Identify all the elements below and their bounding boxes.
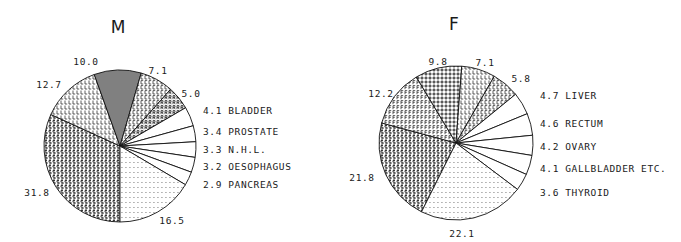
pie-slices-f <box>379 66 533 220</box>
legend-entry-nhl: 3.3 N.H.L. <box>203 144 266 155</box>
value-label-m-16-5: 16.5 <box>159 215 184 226</box>
value-label-f-22-1: 22.1 <box>449 228 474 239</box>
value-label-f-9-8: 9.8 <box>429 56 448 67</box>
legend-entry-gallbladder: 4.1 GALLBLADDER ETC. <box>540 163 666 174</box>
value-label-m-10-0: 10.0 <box>73 56 98 67</box>
legend-entry-rectum: 4.6 RECTUM <box>540 118 603 129</box>
value-label-f-12-2: 12.2 <box>368 88 393 99</box>
value-label-m-12-7: 12.7 <box>36 79 61 90</box>
pie-chart-m: M 10.0 7.1 5.0 12.7 31.8 16.5 4.1 BLADDE… <box>24 17 291 226</box>
legend-entry-pancreas: 2.9 PANCREAS <box>203 179 279 190</box>
legend-entry-ovary: 4.2 OVARY <box>540 141 597 152</box>
value-label-f-5-8: 5.8 <box>512 73 531 84</box>
legend-entry-bladder: 4.1 BLADDER <box>203 105 273 116</box>
legend-entry-thyroid: 3.6 THYROID <box>540 187 610 198</box>
chart-title-m: M <box>111 17 126 37</box>
value-label-m-5-0: 5.0 <box>182 88 201 99</box>
legend-entry-prostate: 3.4 PROSTATE <box>203 126 279 137</box>
value-label-m-31-8: 31.8 <box>24 187 49 198</box>
value-label-f-7-1: 7.1 <box>476 57 495 68</box>
pie-slices-m <box>44 70 196 222</box>
legend-entry-oesophagus: 3.2 OESOPHAGUS <box>203 161 291 172</box>
pie-chart-f: F 9.8 7.1 5.8 12.2 21.8 22.1 4.7 LIVER 4… <box>349 14 666 239</box>
value-label-f-21-8: 21.8 <box>349 172 374 183</box>
legend-entry-liver: 4.7 LIVER <box>540 90 597 101</box>
value-label-m-7-1: 7.1 <box>149 65 168 76</box>
chart-title-f: F <box>449 14 459 34</box>
pie-charts-figure: M 10.0 7.1 5.0 12.7 31.8 16.5 4.1 BLADDE… <box>0 0 681 242</box>
